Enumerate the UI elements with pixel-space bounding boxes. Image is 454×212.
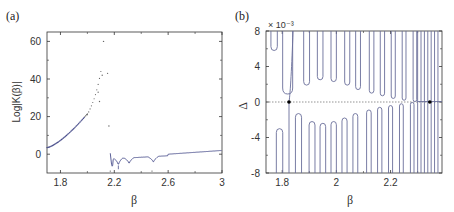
right-branch-line <box>110 151 221 167</box>
lower-branch-curve <box>389 106 393 173</box>
panel-a-xlabel: β <box>131 193 137 207</box>
y-tick-label: 8 <box>254 26 260 37</box>
x-tick-label: 2.2 <box>107 177 121 188</box>
panel-a-ylabel: Log|K(β)| <box>11 82 22 123</box>
panel-b: (b) × 10⁻³ 1.822.2840-4-8 β Δ <box>235 9 442 207</box>
figure: (a) 1.82.22.630204060 β Log|K(β)| (b) × … <box>0 0 454 212</box>
root-marker <box>287 100 291 104</box>
x-tick-label: 1.8 <box>54 177 68 188</box>
panel-b-xlabel: β <box>347 193 353 207</box>
y-tick-label: -8 <box>251 168 260 179</box>
lower-branch-curve <box>295 114 301 173</box>
x-tick-label: 2 <box>334 177 340 188</box>
panel-b-ylabel: Δ <box>236 102 250 110</box>
upper-branch-curve <box>413 31 417 102</box>
panel-b-label: (b) <box>235 9 249 23</box>
lower-branch-curve <box>378 107 382 173</box>
upper-branch-curve <box>271 31 277 51</box>
lower-branch-curve <box>367 110 372 173</box>
upper-branch-curve <box>380 31 384 96</box>
lower-branch-curve <box>353 114 358 173</box>
panel-b-scale-note: × 10⁻³ <box>268 20 294 30</box>
lower-branch-curve <box>410 102 414 173</box>
y-tick-label: 40 <box>30 74 42 85</box>
upper-branch-curve <box>345 31 350 85</box>
upper-branch-curve <box>391 31 395 98</box>
y-tick-label: 20 <box>30 111 42 122</box>
y-tick-label: 0 <box>254 97 260 108</box>
lower-branch-curve <box>342 118 347 173</box>
lower-branch-curve <box>309 122 315 173</box>
y-tick-label: 0 <box>35 149 41 160</box>
lower-branch-curve <box>331 122 336 173</box>
upper-branch-curve <box>283 31 293 94</box>
x-tick-label: 2.6 <box>161 177 175 188</box>
y-tick-label: 60 <box>30 36 42 47</box>
lower-branch-curve <box>276 129 282 173</box>
upper-branch-curve <box>402 31 406 100</box>
lower-branch-curve <box>399 104 403 173</box>
y-tick-label: 4 <box>254 61 260 72</box>
panel-a-data <box>46 41 221 172</box>
x-tick-label: 2.2 <box>384 177 398 188</box>
panel-a: (a) 1.82.22.630204060 β Log|K(β)| <box>6 9 225 207</box>
upper-branch-curve <box>331 31 336 82</box>
upper-branch-curve <box>317 31 323 80</box>
upper-branch-curve <box>369 31 374 93</box>
x-tick-label: 3 <box>219 177 225 188</box>
upper-branch-curve <box>356 31 361 90</box>
y-tick-label: -4 <box>251 132 260 143</box>
root-marker <box>428 100 432 104</box>
x-tick-label: 1.8 <box>275 177 289 188</box>
lower-branch-curve <box>320 123 326 173</box>
panel-a-ticks: 1.82.22.630204060 <box>30 32 225 188</box>
upper-branch-curve <box>304 31 310 85</box>
panel-a-label: (a) <box>6 9 19 23</box>
